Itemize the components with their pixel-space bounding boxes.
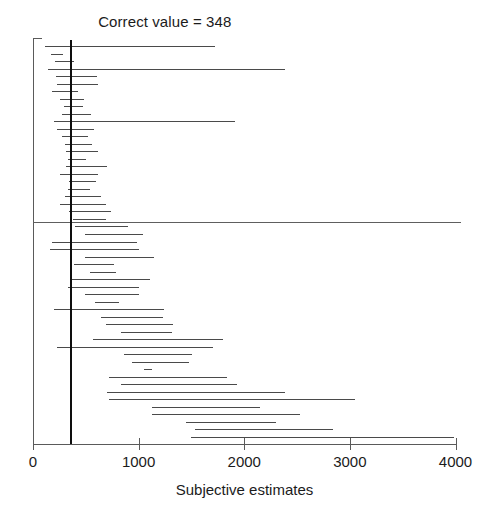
interval-bar: [191, 437, 454, 438]
left-axis-bracket: [33, 38, 34, 444]
plot-area: 01000200030004000 Subjective estimates: [0, 0, 502, 524]
interval-bar: [62, 136, 88, 137]
interval-bar: [121, 384, 237, 385]
interval-bar: [144, 369, 152, 370]
interval-bar: [90, 272, 116, 273]
interval-bar: [152, 407, 260, 408]
interval-bar: [56, 76, 97, 77]
interval-bar: [109, 399, 355, 400]
interval-bar: [52, 242, 137, 243]
x-axis-tick: [244, 438, 245, 450]
interval-bar: [95, 302, 118, 303]
interval-bar: [60, 204, 105, 205]
interval-bar: [50, 249, 139, 250]
interval-bar: [121, 332, 173, 333]
interval-bar: [60, 174, 99, 175]
x-axis-tick: [350, 438, 351, 450]
median-separator-line: [33, 222, 461, 223]
interval-bar: [66, 166, 107, 167]
interval-bar: [70, 279, 150, 280]
interval-bar: [48, 69, 286, 70]
interval-bar: [195, 429, 333, 430]
correct-value-reference-line: [70, 40, 72, 445]
interval-bar: [69, 181, 95, 182]
x-axis-tick-label: 4000: [439, 453, 472, 470]
x-axis-tick: [456, 438, 457, 450]
interval-bar: [52, 91, 78, 92]
x-axis-tick-label: 3000: [333, 453, 366, 470]
interval-bar: [106, 324, 174, 325]
x-axis-label: Subjective estimates: [33, 481, 456, 498]
left-axis-bracket-tick-top: [33, 38, 42, 39]
x-axis-tick: [139, 438, 140, 450]
interval-bar: [107, 392, 286, 393]
x-axis-tick: [33, 438, 34, 450]
interval-bar: [85, 294, 139, 295]
interval-bar: [57, 84, 99, 85]
interval-bar: [186, 422, 276, 423]
interval-bar: [152, 414, 300, 415]
interval-bar: [57, 347, 213, 348]
interval-bar: [60, 99, 84, 100]
interval-bar: [57, 129, 94, 130]
interval-bar: [68, 287, 139, 288]
interval-plot-figure: Correct value = 348 01000200030004000 Su…: [0, 0, 502, 524]
interval-bar: [93, 339, 223, 340]
interval-bar: [85, 257, 155, 258]
interval-bar: [85, 234, 143, 235]
interval-bar: [75, 226, 128, 227]
interval-bar: [109, 377, 227, 378]
interval-bar: [62, 114, 91, 115]
interval-bar: [74, 264, 114, 265]
interval-bar: [64, 106, 83, 107]
interval-bar: [54, 121, 235, 122]
interval-bar: [132, 362, 189, 363]
interval-bar: [73, 219, 106, 220]
interval-bar: [51, 54, 63, 55]
x-axis-tick-label: 1000: [122, 453, 155, 470]
interval-bar: [124, 354, 193, 355]
x-axis-tick-label: 2000: [228, 453, 261, 470]
x-axis-tick-label: 0: [29, 453, 37, 470]
interval-bar: [69, 211, 110, 212]
interval-bar: [101, 317, 163, 318]
